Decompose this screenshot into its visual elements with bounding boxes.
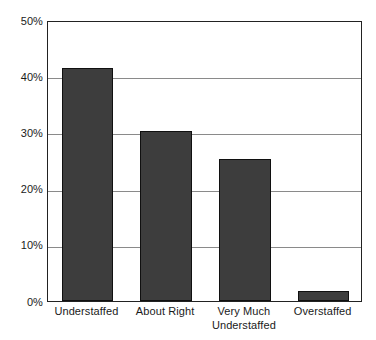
x-axis-tick-label: Overstaffed: [283, 305, 362, 319]
bar: [219, 159, 271, 301]
x-axis-tick-label-line: About Right: [136, 305, 195, 317]
y-axis-tick-label: 50%: [1, 16, 43, 27]
bar: [62, 68, 114, 301]
x-axis-tick-label: Understaffed: [47, 305, 126, 319]
x-axis-tick-label-line: Understaffed: [54, 305, 118, 317]
y-axis: 50% 40% 30% 20% 10% 0%: [0, 0, 43, 340]
y-axis-tick-label: 20%: [1, 184, 43, 195]
x-axis-tick-label-line: Understaffed: [205, 319, 284, 333]
x-axis-tick-label: Very Much Understaffed: [205, 305, 284, 332]
bar-chart: 50% 40% 30% 20% 10% 0% Understaffed Abou…: [0, 0, 376, 340]
plot-area: [47, 21, 362, 302]
y-axis-tick-label: 10%: [1, 240, 43, 251]
y-axis-tick-label: 0%: [1, 297, 43, 308]
y-axis-tick-label: 30%: [1, 128, 43, 139]
x-axis: Understaffed About Right Very Much Under…: [47, 305, 362, 340]
x-axis-tick-label-line: Overstaffed: [294, 305, 352, 317]
y-axis-tick-label: 40%: [1, 72, 43, 83]
x-axis-tick-label: About Right: [126, 305, 205, 319]
x-axis-tick-label-line: Very Much: [217, 305, 270, 317]
bar: [298, 291, 350, 301]
bar: [140, 131, 192, 301]
